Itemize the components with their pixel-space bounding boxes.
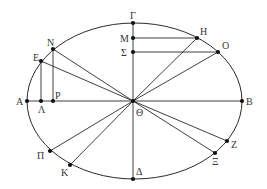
label-a: Α [16, 96, 24, 107]
point-theta [131, 99, 135, 103]
point-b [240, 99, 244, 103]
point-xi [213, 151, 217, 155]
label-lambda: Λ [38, 104, 46, 115]
label-sigma: Σ [121, 47, 127, 58]
point-m [131, 36, 135, 40]
label-p: Ρ [55, 90, 61, 101]
label-b: Β [246, 96, 253, 107]
label-h: Η [200, 26, 207, 37]
segment-theta-z [133, 101, 227, 141]
labels-group: ΓΜΣΗΟΝΕΑΛΡΘΒΖΞΠΚΔ [16, 10, 253, 178]
label-e: Ε [33, 52, 39, 63]
point-z [225, 139, 229, 143]
ellipse-diagram: ΓΜΣΗΟΝΕΑΛΡΘΒΖΞΠΚΔ [0, 0, 267, 189]
point-k [68, 163, 72, 167]
label-k: Κ [61, 167, 69, 178]
label-xi: Ξ [212, 156, 218, 167]
label-z: Ζ [231, 139, 237, 150]
label-n: Ν [47, 37, 54, 48]
point-gamma [131, 21, 135, 25]
point-lambda [39, 99, 43, 103]
label-delta: Δ [136, 166, 143, 177]
point-a [25, 99, 29, 103]
point-sigma [131, 50, 135, 54]
point-o [216, 50, 220, 54]
point-pi [48, 149, 52, 153]
label-theta: Θ [136, 107, 143, 118]
label-o: Ο [222, 40, 229, 51]
segment-theta-xi [133, 101, 215, 153]
point-e [39, 59, 43, 63]
point-delta [131, 177, 135, 181]
label-m: Μ [120, 33, 129, 44]
point-h [195, 36, 199, 40]
label-gamma: Γ [130, 10, 136, 21]
label-pi: Π [37, 150, 44, 161]
